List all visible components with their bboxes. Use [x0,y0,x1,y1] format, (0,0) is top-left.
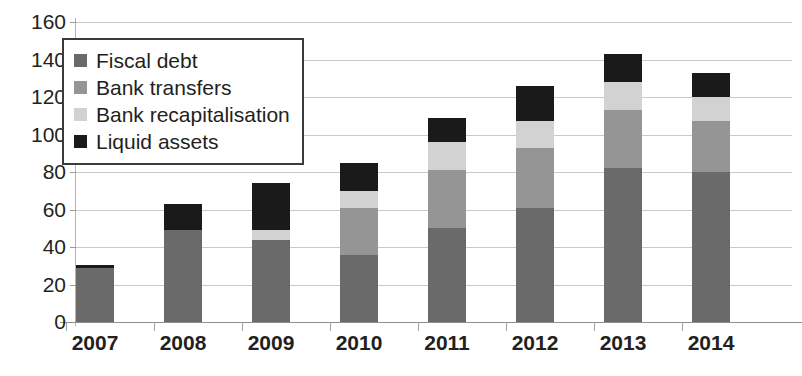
legend-item[interactable]: Fiscal debt [74,47,290,74]
bar-segment[interactable] [604,110,642,168]
legend-item[interactable]: Bank recapitalisation [74,101,290,128]
y-axis-tick-label: 0 [0,311,66,332]
bar-segment[interactable] [252,240,290,322]
bar-segment[interactable] [604,54,642,82]
bar-segment[interactable] [428,142,466,170]
bar-segment[interactable] [692,121,730,172]
bar-2011[interactable] [428,118,466,322]
bar-segment[interactable] [516,86,554,122]
x-axis-tick-label: 2010 [315,331,403,355]
stacked-bar-chart: 020406080100120140160 200720082009201020… [0,0,802,376]
bar-segment[interactable] [516,148,554,208]
bar-segment[interactable] [76,268,114,322]
x-tick-mark [506,322,507,331]
bar-segment[interactable] [340,163,378,191]
bar-segment[interactable] [76,265,114,268]
bar-segment[interactable] [428,228,466,322]
bar-segment[interactable] [340,191,378,208]
x-axis-tick-label: 2014 [667,331,755,355]
legend-swatch-icon [74,54,87,67]
bar-segment[interactable] [692,73,730,97]
legend-item-label: Liquid assets [96,131,219,152]
bar-2014[interactable] [692,73,730,322]
x-axis-tick-label: 2011 [403,331,491,355]
bar-segment[interactable] [604,168,642,322]
y-axis-tick-label: 40 [0,236,66,257]
y-axis-tick-label: 100 [0,124,66,145]
bar-segment[interactable] [164,230,202,322]
bar-2010[interactable] [340,163,378,322]
bar-segment[interactable] [516,121,554,147]
x-axis-tick-label: 2008 [139,331,227,355]
legend-item[interactable]: Bank transfers [74,74,290,101]
legend-item-label: Fiscal debt [96,50,198,71]
x-axis [60,322,802,323]
legend-swatch-icon [74,81,87,94]
y-axis-tick-label: 140 [0,49,66,70]
legend-swatch-icon [74,108,87,121]
bar-segment[interactable] [692,172,730,322]
bar-segment[interactable] [340,208,378,255]
x-tick-mark [154,322,155,331]
x-axis-tick-label: 2007 [51,331,139,355]
bar-2008[interactable] [164,204,202,322]
legend-item-label: Bank recapitalisation [96,104,290,125]
x-axis-tick-label: 2009 [227,331,315,355]
x-tick-mark [418,322,419,331]
legend-item-label: Bank transfers [96,77,231,98]
x-tick-mark [594,322,595,331]
y-axis-tick-label: 120 [0,86,66,107]
bar-2009[interactable] [252,183,290,322]
bar-segment[interactable] [252,230,290,240]
legend-item[interactable]: Liquid assets [74,128,290,155]
x-tick-mark [66,322,67,331]
bar-segment[interactable] [164,204,202,230]
legend-swatch-icon [74,135,87,148]
bar-segment[interactable] [692,97,730,121]
x-axis-tick-label: 2013 [579,331,667,355]
bar-segment[interactable] [428,170,466,228]
bar-segment[interactable] [516,208,554,322]
bar-2007[interactable] [76,265,114,322]
bar-segment[interactable] [604,82,642,110]
bar-segment[interactable] [252,183,290,230]
bar-segment[interactable] [428,118,466,142]
y-axis-tick-label: 80 [0,161,66,182]
chart-legend: Fiscal debtBank transfersBank recapitali… [62,38,304,165]
x-tick-mark [682,322,683,331]
y-axis-tick-label: 160 [0,11,66,32]
y-axis-tick-label: 20 [0,274,66,295]
x-axis-tick-label: 2012 [491,331,579,355]
x-tick-mark [330,322,331,331]
y-axis-tick-label: 60 [0,199,66,220]
x-tick-mark [242,322,243,331]
bar-2012[interactable] [516,86,554,322]
bar-segment[interactable] [340,255,378,323]
bar-2013[interactable] [604,54,642,322]
